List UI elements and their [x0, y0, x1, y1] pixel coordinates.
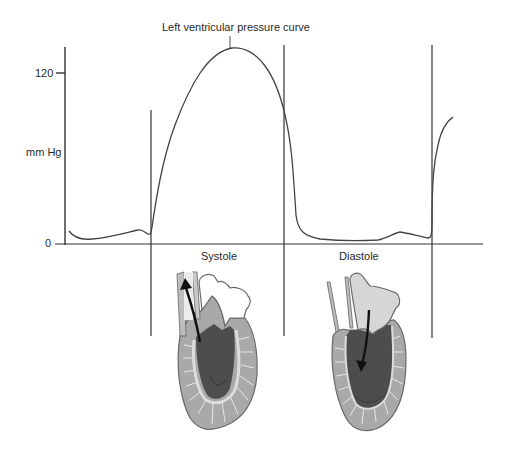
y-tick-label-120: 120: [35, 67, 53, 79]
y-tick-label-0: 0: [45, 237, 51, 249]
heart-diastole-illustration: [327, 273, 406, 430]
pressure-curve: [69, 48, 453, 241]
chart-title: Left ventricular pressure curve: [162, 21, 310, 33]
phase-label-diastole: Diastole: [339, 250, 379, 262]
pressure-diagram: [0, 0, 507, 454]
y-axis-unit-label: mm Hg: [26, 146, 61, 158]
heart-systole-illustration: [177, 272, 257, 429]
phase-label-systole: Systole: [201, 250, 237, 262]
